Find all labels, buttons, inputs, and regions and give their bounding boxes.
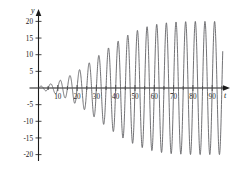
y-tick-label: 5 [29,68,33,76]
y-axis-label: y [30,6,35,15]
y-tick-label: 15 [26,35,34,43]
y-tick-label: -15 [23,135,33,143]
y-tick-label: -10 [23,118,33,126]
y-tick-label: -5 [27,101,33,109]
y-tick-label: -20 [23,151,33,159]
y-tick-label: 10 [26,51,34,59]
x-axis-label: t [224,91,227,100]
chart-container: -20-15-10-55101520 102030405060708090 y … [0,0,233,171]
y-axis-arrow [36,9,42,16]
oscillation-chart: -20-15-10-55101520 102030405060708090 y … [0,0,233,171]
y-tick-label: 20 [26,18,34,26]
y-axis-tick-labels: -20-15-10-55101520 [23,18,33,159]
x-axis-arrow [223,85,230,91]
x-tick-label: 30 [93,93,101,101]
x-tick-label: 20 [74,93,82,101]
